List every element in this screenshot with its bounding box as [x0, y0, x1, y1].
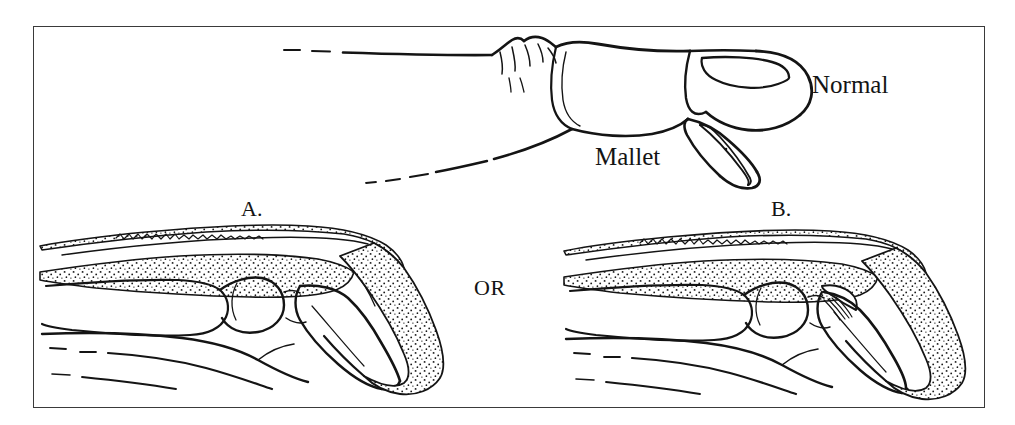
label-panel-b: B. [771, 198, 791, 220]
figure-root: Normal Mallet A. B. OR [0, 0, 1015, 425]
label-mallet: Mallet [595, 144, 660, 169]
label-panel-a: A. [241, 198, 262, 220]
label-normal: Normal [812, 72, 888, 97]
label-or-connector: OR [474, 277, 506, 299]
